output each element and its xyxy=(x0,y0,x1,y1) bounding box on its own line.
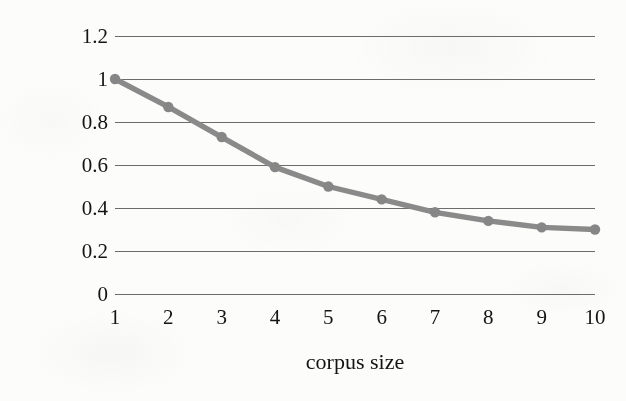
x-tick-label: 1 xyxy=(93,305,137,330)
data-point-marker xyxy=(216,132,226,142)
y-tick-label: 0.8 xyxy=(54,110,108,135)
data-point-marker xyxy=(270,162,280,172)
x-tick-label: 8 xyxy=(466,305,510,330)
y-tick-label: 1 xyxy=(54,67,108,92)
data-point-marker xyxy=(376,194,386,204)
plot-area xyxy=(115,36,595,294)
y-tick-label: 0.4 xyxy=(54,196,108,221)
data-point-marker xyxy=(163,102,173,112)
x-tick-label: 6 xyxy=(360,305,404,330)
data-point-marker xyxy=(590,224,600,234)
x-tick-label: 7 xyxy=(413,305,457,330)
data-point-marker xyxy=(536,222,546,232)
x-tick-label: 9 xyxy=(520,305,564,330)
y-axis-tick-labels: 00.20.40.60.811.2 xyxy=(46,0,108,401)
series-polyline xyxy=(115,79,595,230)
x-tick-label: 5 xyxy=(306,305,350,330)
y-tick-label: 0 xyxy=(54,282,108,307)
x-tick-label: 3 xyxy=(200,305,244,330)
y-tick-label: 0.6 xyxy=(54,153,108,178)
data-point-marker xyxy=(430,207,440,217)
series-markers xyxy=(110,74,600,235)
x-axis-title: corpus size xyxy=(115,349,595,375)
x-tick-label: 2 xyxy=(146,305,190,330)
gridline xyxy=(115,294,595,295)
chart-figure: new relation type ratio 00.20.40.60.811.… xyxy=(0,0,626,401)
x-axis-tick-labels: 12345678910 xyxy=(115,305,595,335)
data-series-line xyxy=(115,36,595,294)
y-tick-label: 1.2 xyxy=(54,24,108,49)
data-point-marker xyxy=(110,74,120,84)
x-tick-label: 4 xyxy=(253,305,297,330)
x-tick-label: 10 xyxy=(573,305,617,330)
y-tick-label: 0.2 xyxy=(54,239,108,264)
data-point-marker xyxy=(483,216,493,226)
data-point-marker xyxy=(323,181,333,191)
